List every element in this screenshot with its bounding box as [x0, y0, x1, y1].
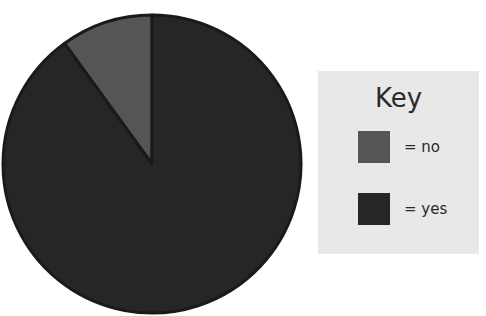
legend-box: Key = no = yes	[318, 71, 479, 254]
legend-swatch-yes	[358, 193, 390, 225]
pie-slice-yes	[3, 15, 301, 313]
legend-label-yes: = yes	[404, 200, 447, 218]
legend-title: Key	[318, 83, 479, 113]
legend-swatch-no	[358, 131, 390, 163]
legend-item-yes: = yes	[358, 193, 447, 225]
pie-chart	[0, 0, 310, 316]
legend-item-no: = no	[358, 131, 440, 163]
legend-label-no: = no	[404, 138, 440, 156]
